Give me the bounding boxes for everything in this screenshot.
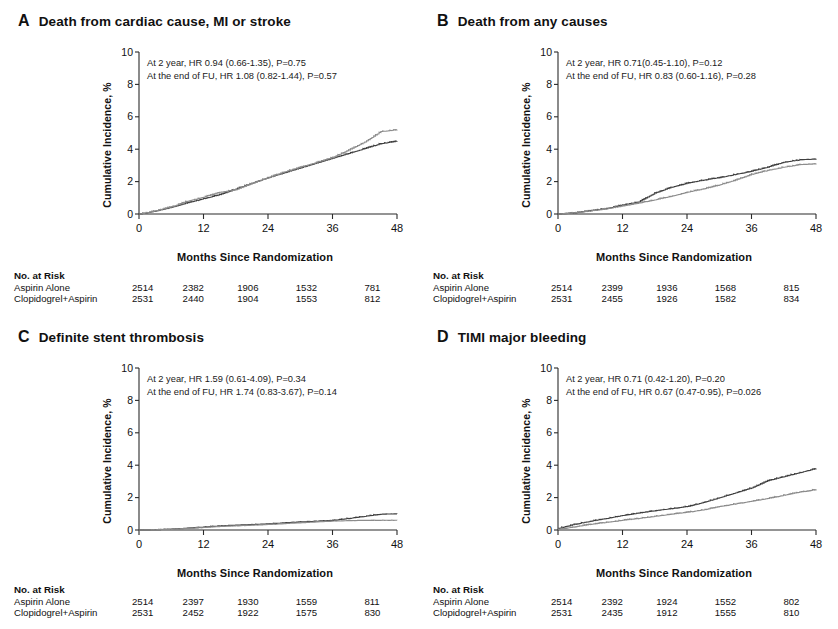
- panel-d-chart: 0246810012243648At 2 year, HR 0.71 (0.42…: [524, 358, 824, 563]
- table-row: Clopidogrel+Aspirin 2531243519121555810: [433, 607, 828, 618]
- svg-text:2: 2: [546, 491, 552, 503]
- risk-row-label: Aspirin Alone: [14, 596, 130, 607]
- svg-text:8: 8: [127, 394, 133, 406]
- svg-text:12: 12: [197, 222, 209, 234]
- svg-text:8: 8: [546, 78, 552, 90]
- svg-text:24: 24: [681, 222, 693, 234]
- panel-b: B Death from any causes Cumulative Incid…: [419, 0, 838, 320]
- risk-value: 2514: [549, 596, 596, 607]
- risk-value: 1575: [282, 607, 341, 618]
- risk-row-values: 2514239919361568815: [549, 282, 828, 293]
- panel-b-y-axis-label: Cumulative Incidence, %: [520, 55, 532, 235]
- risk-value: 2531: [549, 293, 596, 304]
- panel-b-letter: B: [437, 12, 449, 30]
- risk-value: 2435: [596, 607, 647, 618]
- svg-text:10: 10: [121, 362, 133, 374]
- risk-row-label: Aspirin Alone: [14, 282, 130, 293]
- risk-value: 1924: [646, 596, 701, 607]
- svg-text:2: 2: [127, 491, 133, 503]
- risk-value: 1568: [701, 282, 760, 293]
- svg-text:12: 12: [616, 222, 628, 234]
- svg-text:At the end of FU, HR 0.83 (0.6: At the end of FU, HR 0.83 (0.60-1.16), P…: [566, 71, 756, 81]
- panel-c-title: Definite stent thrombosis: [39, 330, 204, 345]
- risk-row-values: 2531245519261582834: [549, 293, 828, 304]
- panel-d-title: TIMI major bleeding: [458, 330, 587, 345]
- panel-c-risk-header: No. at Risk: [14, 584, 409, 595]
- risk-value: 830: [340, 607, 409, 618]
- risk-value: 2397: [177, 596, 228, 607]
- panel-c: C Definite stent thrombosis Cumulative I…: [0, 320, 419, 629]
- svg-text:0: 0: [546, 208, 552, 220]
- kaplan-meier-figure: A Death from cardiac cause, MI or stroke…: [0, 0, 838, 629]
- svg-text:At the end of FU, HR 1.08 (0.8: At the end of FU, HR 1.08 (0.82-1.44), P…: [147, 71, 337, 81]
- svg-text:At the end of FU, HR 0.67 (0.4: At the end of FU, HR 0.67 (0.47-0.95), P…: [566, 387, 761, 397]
- risk-value: 1922: [227, 607, 282, 618]
- risk-value: 1582: [701, 293, 760, 304]
- risk-row-values: 2531243519121555810: [549, 607, 828, 618]
- risk-value: 2455: [596, 293, 647, 304]
- table-row: Aspirin Alone 2514239919361568815: [433, 282, 828, 293]
- panel-c-plot: Cumulative Incidence, % 0246810012243648…: [105, 358, 405, 563]
- risk-value: 2452: [177, 607, 228, 618]
- panel-a-risk-header: No. at Risk: [14, 270, 409, 281]
- risk-row-label: Clopidogrel+Aspirin: [433, 293, 549, 304]
- risk-value: 810: [759, 607, 828, 618]
- svg-text:0: 0: [555, 538, 561, 550]
- svg-text:6: 6: [127, 110, 133, 122]
- svg-text:6: 6: [546, 426, 552, 438]
- table-row: Aspirin Alone 2514239219241552802: [433, 596, 828, 607]
- risk-value: 2440: [177, 293, 228, 304]
- panel-a-x-axis-label: Months Since Randomization: [105, 251, 405, 263]
- svg-text:0: 0: [127, 524, 133, 536]
- risk-row-values: 2514239219241552802: [549, 596, 828, 607]
- svg-text:At 2 year, HR 0.71(0.45-1.10),: At 2 year, HR 0.71(0.45-1.10), P=0.12: [566, 58, 722, 68]
- svg-text:48: 48: [391, 538, 403, 550]
- risk-value: 1930: [227, 596, 282, 607]
- svg-text:0: 0: [127, 208, 133, 220]
- risk-value: 2514: [549, 282, 596, 293]
- risk-value: 1532: [282, 282, 341, 293]
- svg-text:48: 48: [810, 538, 822, 550]
- panel-b-title: Death from any causes: [458, 14, 608, 29]
- panel-d-risk-table: No. at Risk Aspirin Alone 25142392192415…: [433, 584, 828, 619]
- risk-row-label: Aspirin Alone: [433, 282, 549, 293]
- panel-c-x-axis-label: Months Since Randomization: [105, 567, 405, 579]
- risk-value: 1552: [701, 596, 760, 607]
- panel-d-risk-header: No. at Risk: [433, 584, 828, 595]
- svg-text:36: 36: [745, 222, 757, 234]
- svg-text:At 2 year, HR 0.94 (0.66-1.35): At 2 year, HR 0.94 (0.66-1.35), P=0.75: [147, 58, 306, 68]
- panel-b-plot: Cumulative Incidence, % 0246810012243648…: [524, 42, 824, 247]
- panel-a: A Death from cardiac cause, MI or stroke…: [0, 0, 419, 320]
- risk-row-values: 2514239719301559811: [130, 596, 409, 607]
- panel-a-risk-table: No. at Risk Aspirin Alone 25142382190615…: [14, 270, 409, 305]
- svg-text:36: 36: [745, 538, 757, 550]
- svg-text:10: 10: [121, 46, 133, 58]
- panel-d-plot: Cumulative Incidence, % 0246810012243648…: [524, 358, 824, 563]
- svg-text:36: 36: [326, 538, 338, 550]
- svg-text:10: 10: [540, 362, 552, 374]
- panel-d-x-axis-label: Months Since Randomization: [524, 567, 824, 579]
- svg-text:0: 0: [546, 524, 552, 536]
- risk-value: 2399: [596, 282, 647, 293]
- panel-c-letter: C: [18, 328, 30, 346]
- panel-b-risk-table: No. at Risk Aspirin Alone 25142399193615…: [433, 270, 828, 305]
- svg-text:24: 24: [262, 538, 274, 550]
- risk-value: 802: [759, 596, 828, 607]
- svg-text:At 2 year, HR 1.59 (0.61-4.09): At 2 year, HR 1.59 (0.61-4.09), P=0.34: [147, 374, 306, 384]
- risk-row-label: Aspirin Alone: [433, 596, 549, 607]
- risk-value: 1926: [646, 293, 701, 304]
- risk-row-values: 2514238219061532781: [130, 282, 409, 293]
- risk-value: 781: [340, 282, 409, 293]
- panel-d-letter: D: [437, 328, 449, 346]
- risk-value: 1912: [646, 607, 701, 618]
- panel-a-y-axis-label: Cumulative Incidence, %: [101, 55, 113, 235]
- panel-c-chart: 0246810012243648At 2 year, HR 1.59 (0.61…: [105, 358, 405, 563]
- risk-value: 2514: [130, 282, 177, 293]
- risk-value: 1559: [282, 596, 341, 607]
- risk-value: 1555: [701, 607, 760, 618]
- risk-value: 2382: [177, 282, 228, 293]
- svg-text:2: 2: [546, 175, 552, 187]
- risk-value: 1936: [646, 282, 701, 293]
- svg-text:4: 4: [546, 459, 552, 471]
- risk-value: 812: [340, 293, 409, 304]
